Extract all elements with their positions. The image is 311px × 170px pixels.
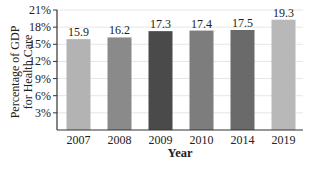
- x-tick-label: 2009: [149, 133, 173, 147]
- bar-chart: 3%6%9%12%15%18%21%15.9200716.2200817.320…: [0, 0, 311, 170]
- bar-2008: [108, 37, 132, 130]
- plot-area: 3%6%9%12%15%18%21%15.9200716.2200817.320…: [0, 0, 311, 170]
- bar-2007: [67, 39, 91, 130]
- x-tick-label: 2007: [67, 133, 91, 147]
- bar-2010: [190, 31, 214, 130]
- value-label: 15.9: [68, 25, 89, 39]
- bar-2019: [272, 20, 296, 130]
- value-label: 17.4: [191, 17, 212, 31]
- value-label: 17.5: [232, 16, 253, 30]
- x-tick-label: 2008: [108, 133, 132, 147]
- x-tick-label: 2014: [231, 133, 255, 147]
- y-axis-label-line-2: for Health Care: [22, 26, 35, 119]
- x-tick-label: 2019: [272, 133, 296, 147]
- x-axis-label: Year: [57, 146, 303, 161]
- y-axis-label: Percentage of GDP for Health Care: [9, 26, 35, 119]
- x-tick-label: 2010: [190, 133, 214, 147]
- bar-2009: [149, 31, 173, 130]
- value-label: 17.3: [150, 17, 171, 31]
- y-axis-label-container: Percentage of GDP for Health Care: [2, 12, 42, 132]
- value-label: 19.3: [273, 6, 294, 20]
- bar-2014: [231, 30, 255, 130]
- value-label: 16.2: [109, 23, 130, 37]
